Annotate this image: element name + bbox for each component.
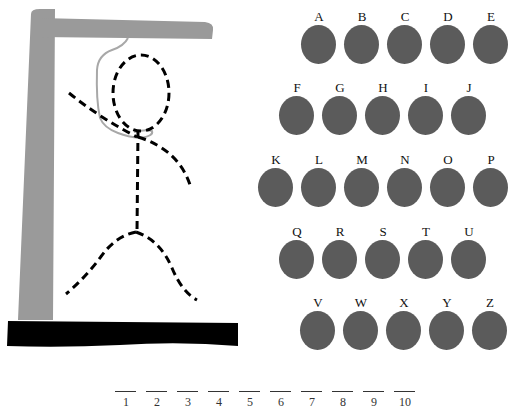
- letter-button-circle[interactable]: [258, 168, 293, 207]
- letter-key-l[interactable]: L: [301, 153, 337, 207]
- letter-key-n[interactable]: N: [387, 153, 423, 207]
- letter-key-r[interactable]: R: [322, 225, 358, 279]
- letter-key-j[interactable]: J: [451, 81, 487, 135]
- left-leg: [66, 232, 136, 294]
- letter-key-t[interactable]: T: [408, 225, 444, 279]
- letter-button-circle[interactable]: [344, 168, 379, 207]
- blank-underline: [394, 391, 415, 392]
- letter-label: D: [430, 10, 466, 24]
- letter-blank: 9: [363, 386, 385, 414]
- letter-label: K: [258, 153, 294, 167]
- letter-button-circle[interactable]: [473, 25, 508, 64]
- letter-button-circle[interactable]: [451, 96, 486, 135]
- blank-number: 3: [177, 395, 199, 410]
- blank-underline: [177, 391, 198, 392]
- blank-number: 9: [363, 395, 385, 410]
- letter-key-m[interactable]: M: [344, 153, 380, 207]
- letter-key-c[interactable]: C: [387, 10, 423, 64]
- letter-key-w[interactable]: W: [343, 296, 379, 350]
- blank-number: 10: [394, 395, 416, 410]
- blank-number: 5: [239, 395, 261, 410]
- letter-label: L: [301, 153, 337, 167]
- letter-button-circle[interactable]: [472, 311, 507, 350]
- letter-button-circle[interactable]: [451, 240, 486, 279]
- letter-key-d[interactable]: D: [430, 10, 466, 64]
- body: [137, 130, 138, 232]
- letter-button-circle[interactable]: [408, 96, 443, 135]
- letter-blank: 3: [177, 386, 199, 414]
- letter-label: I: [408, 81, 444, 95]
- blank-underline: [115, 391, 136, 392]
- letter-key-u[interactable]: U: [451, 225, 487, 279]
- letter-button-circle[interactable]: [300, 311, 335, 350]
- letter-button-circle[interactable]: [365, 96, 400, 135]
- letter-label: A: [301, 10, 337, 24]
- letter-label: M: [344, 153, 380, 167]
- letter-label: W: [343, 296, 379, 310]
- letter-key-e[interactable]: E: [473, 10, 509, 64]
- blank-underline: [363, 391, 384, 392]
- letter-blank: 7: [301, 386, 323, 414]
- letter-key-b[interactable]: B: [344, 10, 380, 64]
- letter-button-circle[interactable]: [430, 25, 465, 64]
- letter-key-v[interactable]: V: [300, 296, 336, 350]
- blank-underline: [301, 391, 322, 392]
- letter-label: T: [408, 225, 444, 239]
- letter-label: Q: [279, 225, 315, 239]
- letter-key-p[interactable]: P: [473, 153, 509, 207]
- letter-key-x[interactable]: X: [386, 296, 422, 350]
- letter-button-circle[interactable]: [387, 168, 422, 207]
- letter-button-circle[interactable]: [301, 168, 336, 207]
- letter-key-z[interactable]: Z: [472, 296, 508, 350]
- letter-key-i[interactable]: I: [408, 81, 444, 135]
- letter-key-o[interactable]: O: [430, 153, 466, 207]
- blank-underline: [208, 391, 229, 392]
- blank-underline: [239, 391, 260, 392]
- blank-underline: [332, 391, 353, 392]
- right-leg: [136, 232, 197, 300]
- letter-label: J: [451, 81, 487, 95]
- blank-number: 2: [146, 395, 168, 410]
- letter-button-circle[interactable]: [343, 311, 378, 350]
- blank-number: 1: [115, 395, 137, 410]
- blank-underline: [270, 391, 291, 392]
- letter-key-y[interactable]: Y: [429, 296, 465, 350]
- letter-button-circle[interactable]: [322, 240, 357, 279]
- letter-button-circle[interactable]: [279, 96, 314, 135]
- letter-button-circle[interactable]: [322, 96, 357, 135]
- letter-key-s[interactable]: S: [365, 225, 401, 279]
- letter-label: V: [300, 296, 336, 310]
- letter-button-circle[interactable]: [387, 25, 422, 64]
- blank-number: 8: [332, 395, 354, 410]
- letter-label: P: [473, 153, 509, 167]
- letter-button-circle[interactable]: [408, 240, 443, 279]
- letter-button-circle[interactable]: [386, 311, 421, 350]
- letter-button-circle[interactable]: [344, 25, 379, 64]
- letter-blank: 5: [239, 386, 261, 414]
- letter-label: B: [344, 10, 380, 24]
- left-arm: [69, 93, 137, 137]
- letter-blank: 1: [115, 386, 137, 414]
- letter-blank: 10: [394, 386, 416, 414]
- letter-button-circle[interactable]: [429, 311, 464, 350]
- letter-key-f[interactable]: F: [279, 81, 315, 135]
- letter-label: U: [451, 225, 487, 239]
- letter-label: F: [279, 81, 315, 95]
- letter-button-circle[interactable]: [473, 168, 508, 207]
- letter-blank: 8: [332, 386, 354, 414]
- right-arm: [138, 137, 191, 188]
- letter-button-circle[interactable]: [430, 168, 465, 207]
- letter-label: X: [386, 296, 422, 310]
- letter-label: N: [387, 153, 423, 167]
- letter-button-circle[interactable]: [301, 25, 336, 64]
- letter-button-circle[interactable]: [279, 240, 314, 279]
- blank-number: 6: [270, 395, 292, 410]
- letter-key-h[interactable]: H: [365, 81, 401, 135]
- letter-label: E: [473, 10, 509, 24]
- letter-key-k[interactable]: K: [258, 153, 294, 207]
- letter-key-q[interactable]: Q: [279, 225, 315, 279]
- letter-key-g[interactable]: G: [322, 81, 358, 135]
- letter-label: O: [430, 153, 466, 167]
- letter-button-circle[interactable]: [365, 240, 400, 279]
- letter-key-a[interactable]: A: [301, 10, 337, 64]
